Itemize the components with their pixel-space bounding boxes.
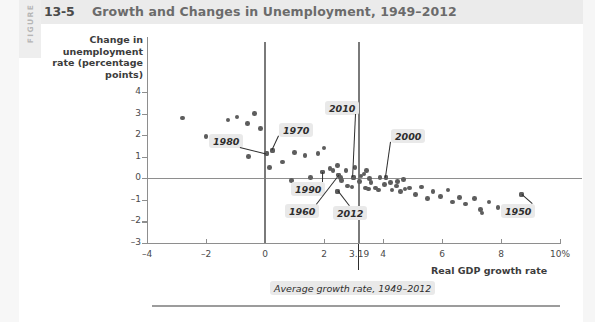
data-point bbox=[407, 186, 412, 191]
data-point bbox=[480, 211, 485, 216]
data-point bbox=[258, 126, 263, 131]
data-point bbox=[331, 168, 336, 173]
x-tick-label: 6 bbox=[422, 249, 462, 259]
x-tick-label: 8 bbox=[481, 249, 521, 259]
scatter-chart: 43210–1–2–3–4–2023.1946810%Change in une… bbox=[41, 24, 583, 296]
data-point bbox=[376, 188, 381, 193]
data-point bbox=[357, 179, 362, 184]
x-tick bbox=[324, 239, 325, 244]
series-label-1950: 1950 bbox=[501, 204, 535, 218]
y-tick bbox=[142, 92, 147, 93]
data-point bbox=[226, 118, 231, 123]
y-tick-label: 1 bbox=[121, 151, 141, 161]
series-label-1960: 1960 bbox=[285, 204, 319, 218]
x-tick-label: 0 bbox=[245, 249, 285, 259]
series-label-1980: 1980 bbox=[209, 134, 243, 148]
data-point bbox=[388, 180, 393, 185]
data-point bbox=[235, 115, 240, 120]
data-point bbox=[487, 200, 492, 205]
figure-title: Growth and Changes in Unemployment, 1949… bbox=[92, 4, 457, 19]
y-tick bbox=[142, 200, 147, 201]
data-point bbox=[252, 111, 257, 116]
data-point bbox=[496, 205, 501, 210]
series-label-2010: 2010 bbox=[325, 101, 359, 115]
data-point bbox=[246, 154, 251, 159]
y-tick-label: 3 bbox=[121, 108, 141, 118]
y-tick-label: 4 bbox=[121, 86, 141, 96]
data-point bbox=[204, 134, 209, 139]
data-point bbox=[394, 184, 399, 189]
data-point bbox=[472, 196, 477, 201]
leader-line-2000 bbox=[385, 142, 391, 177]
data-point bbox=[350, 185, 355, 190]
x-tick bbox=[501, 239, 502, 244]
series-label-2012: 2012 bbox=[333, 206, 367, 220]
data-point bbox=[303, 153, 308, 158]
x-tick bbox=[147, 239, 148, 244]
y-tick-label: –1 bbox=[121, 194, 141, 204]
figure-number: 13-5 bbox=[44, 4, 74, 19]
x-tick bbox=[383, 239, 384, 244]
data-point bbox=[180, 116, 185, 121]
x-tick-label: 2 bbox=[304, 249, 344, 259]
data-point bbox=[401, 177, 406, 182]
leader-line-1950 bbox=[522, 194, 533, 204]
zero-reference-line bbox=[147, 178, 582, 179]
figure-page: FIGURE 13-5 Growth and Changes in Unempl… bbox=[0, 0, 595, 322]
data-point bbox=[413, 192, 418, 197]
data-point bbox=[245, 121, 250, 126]
data-point bbox=[308, 175, 313, 180]
data-point bbox=[335, 163, 340, 168]
x-axis bbox=[147, 243, 560, 244]
y-axis bbox=[147, 37, 148, 243]
series-label-1990: 1990 bbox=[291, 182, 325, 196]
data-point bbox=[390, 188, 395, 193]
y-tick bbox=[142, 157, 147, 158]
y-tick bbox=[142, 135, 147, 136]
figure-kicker: FIGURE bbox=[26, 0, 35, 50]
y-axis-title: Change in unemployment rate (percentage … bbox=[43, 34, 143, 80]
x-axis-title: Real GDP growth rate bbox=[431, 265, 547, 276]
x-tick-label: –4 bbox=[127, 249, 167, 259]
page-left-margin bbox=[0, 0, 19, 322]
y-tick-label: –3 bbox=[121, 237, 141, 247]
data-point bbox=[438, 194, 443, 199]
leader-line-1980 bbox=[240, 147, 266, 154]
x-tick-label: 10% bbox=[540, 249, 580, 259]
x-tick bbox=[560, 239, 561, 244]
data-point bbox=[339, 178, 344, 183]
data-point bbox=[292, 150, 297, 155]
y-tick bbox=[142, 114, 147, 115]
leader-line-1970 bbox=[271, 136, 279, 151]
data-point bbox=[419, 185, 424, 190]
series-label-1970: 1970 bbox=[279, 123, 313, 137]
data-point bbox=[463, 202, 468, 207]
data-point bbox=[395, 179, 400, 184]
leader-line-2012 bbox=[337, 191, 349, 206]
figure-tab: FIGURE bbox=[19, 0, 41, 58]
x-tick bbox=[206, 239, 207, 244]
y-tick-label: 2 bbox=[121, 129, 141, 139]
data-point bbox=[267, 165, 272, 170]
y-tick-label: –2 bbox=[121, 215, 141, 225]
y-tick bbox=[142, 221, 147, 222]
average-growth-callout: Average growth rate, 1949–2012 bbox=[270, 281, 435, 295]
data-point bbox=[425, 196, 430, 201]
data-point bbox=[378, 175, 383, 180]
data-point bbox=[382, 182, 387, 187]
data-point bbox=[344, 168, 349, 173]
y-tick-label: 0 bbox=[121, 172, 141, 182]
bottom-rule bbox=[152, 305, 560, 307]
average-growth-stem bbox=[358, 244, 359, 270]
series-label-2000: 2000 bbox=[391, 129, 425, 143]
data-point bbox=[457, 195, 462, 200]
x-tick-label: 4 bbox=[363, 249, 403, 259]
data-point bbox=[364, 168, 369, 173]
data-point bbox=[431, 189, 436, 194]
data-point bbox=[450, 200, 455, 205]
page-right-margin bbox=[583, 0, 595, 322]
x-tick-label: –2 bbox=[186, 249, 226, 259]
reference-line-x-0 bbox=[264, 42, 266, 243]
data-point bbox=[316, 151, 321, 156]
data-point bbox=[280, 160, 285, 165]
